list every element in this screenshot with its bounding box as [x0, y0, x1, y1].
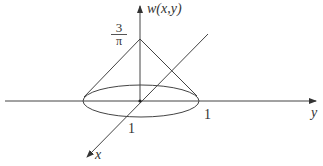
y-tick-one: 1	[204, 108, 211, 122]
cone-diagram: w(x,y) 3 π 1 1 y x	[0, 0, 323, 166]
diagram-canvas	[0, 0, 323, 166]
cone-right-edge	[140, 39, 197, 96]
apex-height-label: 3 π	[111, 21, 127, 48]
x-tick-one: 1	[128, 122, 135, 136]
y-axis-label: y	[311, 106, 317, 120]
x-axis	[87, 34, 208, 157]
w-axis-label: w(x,y)	[147, 2, 182, 16]
x-axis-label: x	[95, 148, 101, 162]
origin-dot	[138, 99, 141, 102]
apex-denominator: π	[111, 35, 127, 48]
apex-numerator: 3	[111, 21, 127, 35]
